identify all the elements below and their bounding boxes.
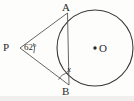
- label-point-p: P: [3, 42, 9, 53]
- label-point-b: B: [62, 86, 69, 97]
- label-angle-at-p: 62°: [24, 43, 37, 52]
- label-angle-x: x: [67, 65, 71, 74]
- center-dot-icon: [93, 46, 96, 49]
- geometry-figure: P A B O 62° x: [0, 0, 134, 101]
- label-point-a: A: [62, 2, 70, 13]
- label-center-o: O: [99, 43, 107, 54]
